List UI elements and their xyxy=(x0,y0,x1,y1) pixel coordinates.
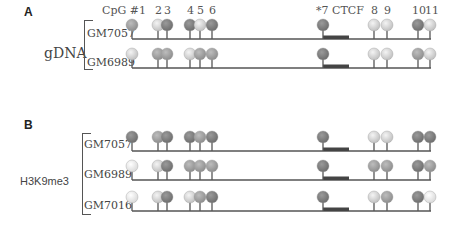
cpg-1-white-circle-icon xyxy=(126,191,138,203)
sample-row-gm7057 xyxy=(126,131,436,151)
cpg-8-light-circle-icon xyxy=(368,191,380,203)
sample-row-gm6989 xyxy=(126,160,436,180)
cpg-3-dark-circle-icon xyxy=(161,131,173,143)
ctcf-binding-site xyxy=(323,148,349,152)
cpg-7-dark-circle-icon xyxy=(317,191,329,203)
cpg-3-dark-circle-icon xyxy=(161,160,173,172)
cpg-7-dark-circle-icon xyxy=(317,131,329,143)
cpg-6-dark-circle-icon xyxy=(206,19,218,31)
cpg-9-mid-circle-icon xyxy=(381,191,393,203)
ctcf-binding-site xyxy=(323,65,349,69)
cpg-1-light-circle-icon xyxy=(126,48,138,60)
cpg-8-mid-circle-icon xyxy=(368,160,380,172)
cpg-3-dark-circle-icon xyxy=(161,19,173,31)
cpg-5-mid-circle-icon xyxy=(194,48,206,60)
cpg-6-dark-circle-icon xyxy=(206,131,218,143)
cpg-10-dark-circle-icon xyxy=(412,131,424,143)
sample-row-gm6989 xyxy=(126,48,436,68)
cpg-11-mid-circle-icon xyxy=(424,160,436,172)
cpg-8-light-circle-icon xyxy=(368,48,380,60)
cpg-9-light-circle-icon xyxy=(381,131,393,143)
ctcf-binding-site xyxy=(323,177,349,181)
cpg-6-mid-circle-icon xyxy=(206,160,218,172)
cpg-3-dark-circle-icon xyxy=(161,191,173,203)
cpg-10-mid-circle-icon xyxy=(412,48,424,60)
cpg-9-light-circle-icon xyxy=(381,19,393,31)
cpg-7-dark-circle-icon xyxy=(317,48,329,60)
cpg-7-dark-circle-icon xyxy=(317,160,329,172)
cpg-8-light-circle-icon xyxy=(368,131,380,143)
cpg-5-mid-circle-icon xyxy=(194,131,206,143)
cpg-11-light-circle-icon xyxy=(424,19,436,31)
cpg-11-dark-circle-icon xyxy=(424,131,436,143)
sample-row-gm7057 xyxy=(126,19,436,39)
cpg-8-light-circle-icon xyxy=(368,19,380,31)
cpg-5-mid-circle-icon xyxy=(194,191,206,203)
cpg-7-dark-circle-icon xyxy=(317,19,329,31)
cpg-10-dark-circle-icon xyxy=(412,19,424,31)
cpg-6-mid-circle-icon xyxy=(206,48,218,60)
ctcf-binding-site xyxy=(323,208,349,212)
sample-row-gm7016 xyxy=(126,191,436,211)
cpg-9-mid-circle-icon xyxy=(381,160,393,172)
cpg-10-dark-circle-icon xyxy=(412,191,424,203)
cpg-1-dark-circle-icon xyxy=(126,131,138,143)
cpg-5-mid-circle-icon xyxy=(194,160,206,172)
cpg-9-light-circle-icon xyxy=(381,48,393,60)
methylation-lollipop-diagram xyxy=(0,0,463,227)
ctcf-binding-site xyxy=(323,36,349,40)
cpg-1-white-circle-icon xyxy=(126,160,138,172)
cpg-11-white-circle-icon xyxy=(424,191,436,203)
cpg-6-dark-circle-icon xyxy=(206,191,218,203)
cpg-10-dark-circle-icon xyxy=(412,160,424,172)
cpg-1-mid-circle-icon xyxy=(126,19,138,31)
cpg-3-mid-circle-icon xyxy=(161,48,173,60)
cpg-5-light-circle-icon xyxy=(194,19,206,31)
cpg-11-light-circle-icon xyxy=(424,48,436,60)
